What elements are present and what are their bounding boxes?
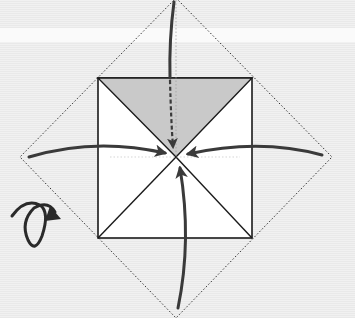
diagram-canvas (0, 0, 355, 318)
fold-diagram (0, 0, 355, 318)
fold-top-corner-arrow (170, 2, 174, 78)
turn-over-icon (12, 203, 61, 246)
